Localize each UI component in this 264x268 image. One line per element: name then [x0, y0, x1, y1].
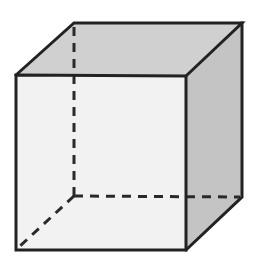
cube-diagram	[0, 0, 264, 268]
cube-front-face	[16, 75, 186, 250]
